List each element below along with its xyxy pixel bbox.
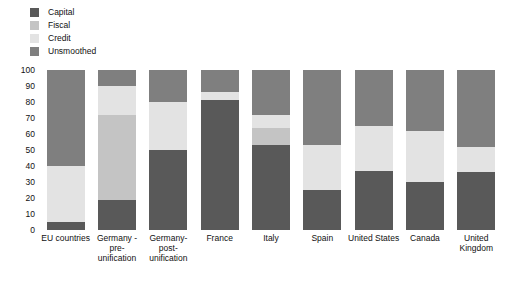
x-axis-label: Canada: [399, 233, 450, 263]
legend-item-fiscal[interactable]: Fiscal: [30, 20, 96, 31]
bar-segment-credit[interactable]: [303, 145, 341, 190]
bar-segment-capital[interactable]: [252, 145, 290, 230]
x-axis-label-line: United: [451, 233, 502, 243]
bar-segment-credit[interactable]: [98, 86, 136, 115]
bar-segment-credit[interactable]: [457, 147, 495, 173]
stacked-bar[interactable]: [303, 70, 341, 230]
x-axis-label-line: unification: [91, 253, 142, 263]
bars-container: [40, 70, 502, 230]
bar-segment-fiscal[interactable]: [98, 115, 136, 200]
bar-group: [245, 70, 296, 230]
bar-segment-capital[interactable]: [355, 171, 393, 230]
legend-swatch-icon: [30, 21, 39, 30]
x-axis-label: Spain: [297, 233, 348, 263]
legend-item-capital[interactable]: Capital: [30, 7, 96, 18]
bar-segment-credit[interactable]: [149, 102, 187, 150]
bar-segment-capital[interactable]: [303, 190, 341, 230]
y-axis-tick-label: 40: [26, 162, 35, 171]
y-axis-tick-label: 10: [26, 210, 35, 219]
stacked-bar-chart: CapitalFiscalCreditUnsmoothed 1009080706…: [0, 0, 515, 283]
stacked-bar[interactable]: [457, 70, 495, 230]
legend-swatch-icon: [30, 34, 39, 43]
bar-group: [40, 70, 91, 230]
legend-item-label: Fiscal: [48, 21, 70, 30]
stacked-bar[interactable]: [98, 70, 136, 230]
bar-segment-unsmoothed[interactable]: [98, 70, 136, 86]
bar-segment-capital[interactable]: [47, 222, 85, 230]
y-axis-tick-label: 70: [26, 114, 35, 123]
bar-segment-unsmoothed[interactable]: [47, 70, 85, 166]
stacked-bar[interactable]: [355, 70, 393, 230]
legend-item-label: Unsmoothed: [48, 47, 96, 56]
x-axis-label: EU countries: [40, 233, 91, 263]
bar-group: [348, 70, 399, 230]
legend-item-credit[interactable]: Credit: [30, 33, 96, 44]
bar-segment-capital[interactable]: [201, 100, 239, 230]
stacked-bar[interactable]: [406, 70, 444, 230]
stacked-bar[interactable]: [252, 70, 290, 230]
stacked-bar[interactable]: [47, 70, 85, 230]
x-axis-label-line: unification: [143, 253, 194, 263]
bar-segment-unsmoothed[interactable]: [406, 70, 444, 131]
bar-segment-unsmoothed[interactable]: [201, 70, 239, 92]
x-axis-label: United States: [348, 233, 399, 263]
y-axis-tick-label: 50: [26, 146, 35, 155]
x-axis-label-line: Germany-: [143, 233, 194, 243]
legend-swatch-icon: [30, 47, 39, 56]
x-axis-labels: EU countriesGermany -pre-unificationGerm…: [40, 233, 502, 263]
x-axis-label-line: pre-: [91, 243, 142, 253]
bar-segment-credit[interactable]: [201, 92, 239, 100]
bar-group: [399, 70, 450, 230]
plot-area: 1009080706050403020100: [40, 70, 502, 230]
x-axis-label-line: Canada: [399, 233, 450, 243]
legend-item-unsmoothed[interactable]: Unsmoothed: [30, 46, 96, 57]
bar-group: [143, 70, 194, 230]
bar-segment-credit[interactable]: [355, 126, 393, 171]
x-axis-label-line: France: [194, 233, 245, 243]
bar-segment-credit[interactable]: [252, 115, 290, 128]
x-axis-label-line: Italy: [245, 233, 296, 243]
y-axis-tick-label: 0: [30, 226, 35, 235]
bar-group: [451, 70, 502, 230]
y-axis-tick-label: 90: [26, 82, 35, 91]
bar-segment-credit[interactable]: [47, 166, 85, 222]
bar-group: [297, 70, 348, 230]
x-axis-label: France: [194, 233, 245, 263]
bar-segment-unsmoothed[interactable]: [149, 70, 187, 102]
x-axis-label-line: Spain: [297, 233, 348, 243]
y-axis-tick-label: 20: [26, 194, 35, 203]
x-axis-label-line: Kingdom: [451, 243, 502, 253]
legend-swatch-icon: [30, 8, 39, 17]
x-axis-label: Italy: [245, 233, 296, 263]
legend-item-label: Capital: [48, 8, 74, 17]
x-axis-label-line: Germany -: [91, 233, 142, 243]
legend-item-label: Credit: [48, 34, 71, 43]
chart-legend: CapitalFiscalCreditUnsmoothed: [30, 7, 96, 59]
bar-segment-unsmoothed[interactable]: [355, 70, 393, 126]
bar-segment-unsmoothed[interactable]: [457, 70, 495, 147]
x-axis-label: UnitedKingdom: [451, 233, 502, 263]
y-axis-tick-label: 60: [26, 130, 35, 139]
x-axis-label-line: EU countries: [40, 233, 91, 243]
bar-segment-capital[interactable]: [98, 200, 136, 230]
bar-group: [194, 70, 245, 230]
y-axis-tick-label: 30: [26, 178, 35, 187]
x-axis-label: Germany -pre-unification: [91, 233, 142, 263]
stacked-bar[interactable]: [149, 70, 187, 230]
bar-segment-fiscal[interactable]: [252, 128, 290, 146]
x-axis-label: Germany-post-unification: [143, 233, 194, 263]
bar-segment-unsmoothed[interactable]: [303, 70, 341, 145]
bar-group: [91, 70, 142, 230]
stacked-bar[interactable]: [201, 70, 239, 230]
bar-segment-credit[interactable]: [406, 131, 444, 182]
bar-segment-unsmoothed[interactable]: [252, 70, 290, 115]
x-axis-label-line: post-: [143, 243, 194, 253]
bar-segment-capital[interactable]: [457, 172, 495, 230]
y-axis-tick-label: 80: [26, 98, 35, 107]
y-axis-tick-label: 100: [21, 66, 35, 75]
bar-segment-capital[interactable]: [406, 182, 444, 230]
x-axis-label-line: United States: [348, 233, 399, 243]
bar-segment-capital[interactable]: [149, 150, 187, 230]
